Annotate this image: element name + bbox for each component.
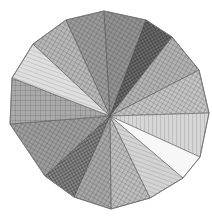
wedge-group	[10, 11, 209, 209]
pencil-drawing	[0, 0, 212, 217]
